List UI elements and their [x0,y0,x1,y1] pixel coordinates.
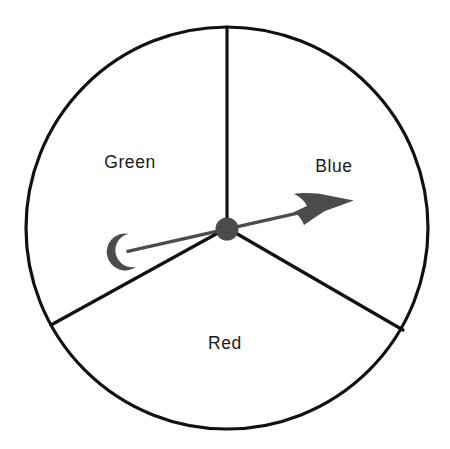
sector-label-blue: Blue [315,156,352,176]
spinner-hub[interactable] [216,218,239,241]
spinner-canvas: Green Blue Red [0,0,450,449]
spinner-figure: Green Blue Red [0,0,450,449]
sector-label-green: Green [104,152,156,172]
sector-label-red: Red [208,333,242,353]
